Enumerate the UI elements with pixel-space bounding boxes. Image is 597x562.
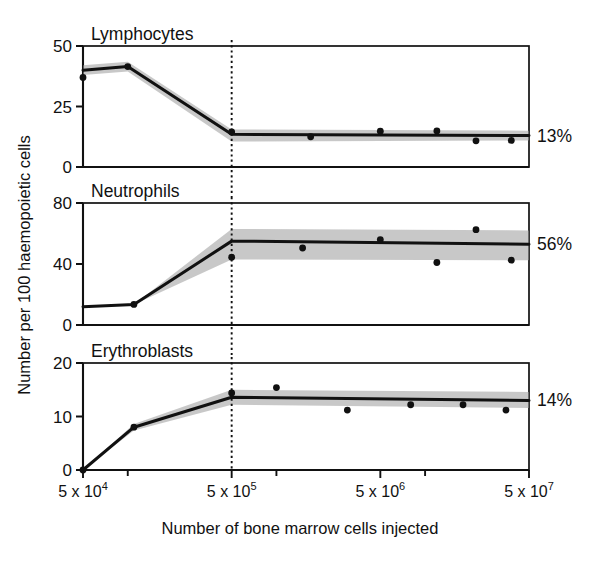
y-tick-label: 50 bbox=[53, 37, 72, 56]
data-point bbox=[377, 128, 384, 135]
data-point bbox=[433, 259, 440, 266]
plateau-percentage-label: 56% bbox=[537, 234, 572, 254]
canvas-background bbox=[0, 0, 597, 562]
y-tick-label: 0 bbox=[63, 316, 72, 335]
y-tick-label: 20 bbox=[53, 354, 72, 373]
x-tick-label: 5 x 105 bbox=[207, 480, 257, 500]
data-point bbox=[344, 407, 351, 414]
data-point bbox=[131, 424, 138, 431]
data-point bbox=[473, 226, 480, 233]
data-point bbox=[131, 301, 138, 308]
panel-title: Lymphocytes bbox=[91, 24, 194, 44]
panel-title: Neutrophils bbox=[91, 181, 180, 201]
data-point bbox=[80, 74, 87, 81]
y-axis-title: Number per 100 haemopoietic cells bbox=[15, 135, 33, 395]
data-point bbox=[508, 257, 515, 264]
data-point bbox=[460, 401, 467, 408]
plateau-percentage-label: 14% bbox=[537, 390, 572, 410]
data-point bbox=[273, 384, 280, 391]
x-axis-title: Number of bone marrow cells injected bbox=[162, 519, 439, 537]
data-point bbox=[433, 128, 440, 135]
y-tick-label: 0 bbox=[63, 158, 72, 177]
panel-title: Erythroblasts bbox=[91, 341, 193, 361]
x-tick-label: 5 x 106 bbox=[355, 480, 405, 500]
y-tick-label: 40 bbox=[53, 255, 72, 274]
data-point bbox=[473, 137, 480, 144]
y-tick-label: 0 bbox=[63, 461, 72, 480]
data-point bbox=[307, 133, 314, 140]
data-point bbox=[503, 407, 510, 414]
y-tick-label: 10 bbox=[53, 408, 72, 427]
plateau-percentage-label: 13% bbox=[537, 126, 572, 146]
figure-root: 02550Lymphocytes13%04080Neutrophils56%01… bbox=[0, 0, 597, 562]
y-tick-label: 25 bbox=[53, 98, 72, 117]
data-point bbox=[124, 63, 131, 70]
data-point bbox=[407, 401, 414, 408]
data-point bbox=[377, 236, 384, 243]
chart-canvas: 02550Lymphocytes13%04080Neutrophils56%01… bbox=[0, 0, 597, 562]
data-point bbox=[508, 137, 515, 144]
x-tick-label: 5 x 107 bbox=[504, 480, 554, 500]
x-tick-label: 5 x 104 bbox=[58, 480, 108, 500]
data-point bbox=[299, 245, 306, 252]
y-tick-label: 80 bbox=[53, 194, 72, 213]
